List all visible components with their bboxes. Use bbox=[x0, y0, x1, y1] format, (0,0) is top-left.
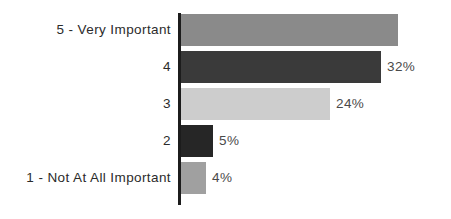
bar-segment bbox=[181, 162, 206, 194]
bar-row: 4 32% bbox=[0, 51, 451, 83]
bar-value-label: 5% bbox=[219, 125, 239, 157]
bar-rows: 5 - Very Important 35% 4 32% 3 2 bbox=[0, 14, 451, 199]
plot-area: 5 - Very Important 35% 4 32% 3 2 bbox=[0, 0, 451, 219]
category-label: 4 bbox=[163, 51, 171, 83]
bar-track: 35% bbox=[181, 14, 451, 46]
bar-row: 5 - Very Important 35% bbox=[0, 14, 451, 46]
category-label: 1 - Not At All Important bbox=[26, 162, 171, 194]
bar-value-label: 24% bbox=[336, 88, 364, 120]
category-label: 5 - Very Important bbox=[57, 14, 172, 46]
bar-track: 24% bbox=[181, 88, 451, 120]
category-label: 3 bbox=[163, 88, 171, 120]
bar-segment bbox=[181, 14, 398, 46]
bar-segment bbox=[181, 88, 330, 120]
bar-value-label: 4% bbox=[212, 162, 232, 194]
bar-track: 32% bbox=[181, 51, 451, 83]
bar-value-label: 32% bbox=[387, 51, 415, 83]
bar-segment bbox=[181, 125, 213, 157]
bar-row: 3 24% bbox=[0, 88, 451, 120]
bar-chart: 5 - Very Important 35% 4 32% 3 2 bbox=[0, 0, 451, 219]
bar-track: 4% bbox=[181, 162, 451, 194]
bar-segment bbox=[181, 51, 381, 83]
bar-row: 2 5% bbox=[0, 125, 451, 157]
bar-track: 5% bbox=[181, 125, 451, 157]
bar-row: 1 - Not At All Important 4% bbox=[0, 162, 451, 194]
category-label: 2 bbox=[163, 125, 171, 157]
